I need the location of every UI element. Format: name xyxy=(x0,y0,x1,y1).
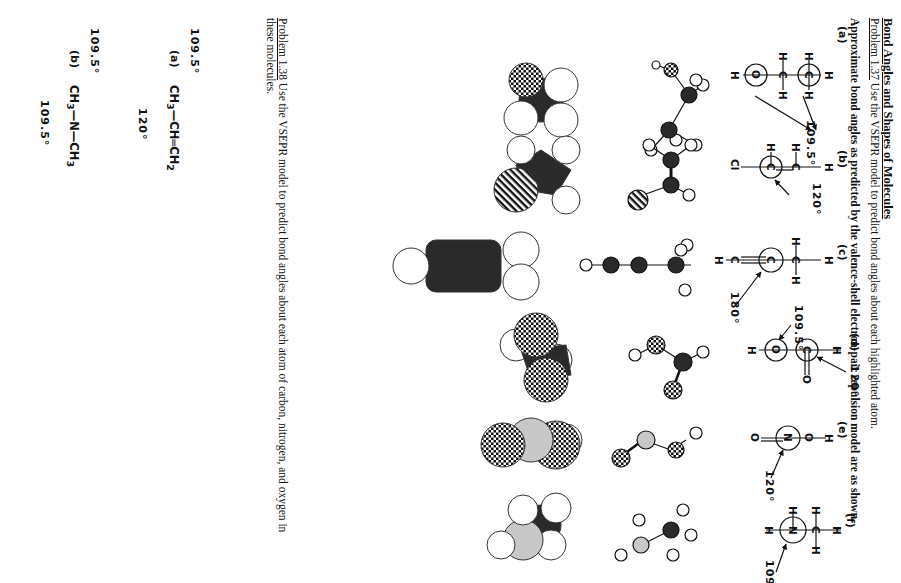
formula-138a: CH3—CH═CH2 xyxy=(165,85,181,171)
formula-part: —N—CH xyxy=(67,110,81,161)
formula-part: —CH═CH xyxy=(167,110,181,165)
item-138a-label: (a) xyxy=(168,50,181,67)
formula-sub: 3 xyxy=(65,103,76,110)
angle-138a-2: 120° xyxy=(136,108,149,140)
angle-138b-1: 109.5° xyxy=(88,28,101,74)
formula-sub: 3 xyxy=(165,103,176,110)
document-page: Bond Angles and Shapes of Molecules Prob… xyxy=(0,0,901,583)
formula-138b: CH3—N—CH3 xyxy=(65,85,81,167)
formula-sub: 2 xyxy=(165,164,176,171)
formula-part: CH xyxy=(67,85,81,103)
formula-part: CH xyxy=(167,85,181,103)
problem-1-38-structures: 109.5° (a) CH3—CH═CH2 120° 109.5° (b) CH… xyxy=(0,0,901,583)
angle-138a-1: 109.5° xyxy=(188,28,201,74)
angle-138b-2: 109.5° xyxy=(38,100,51,146)
formula-sub: 3 xyxy=(65,160,76,167)
item-138b-label: (b) xyxy=(68,50,81,68)
